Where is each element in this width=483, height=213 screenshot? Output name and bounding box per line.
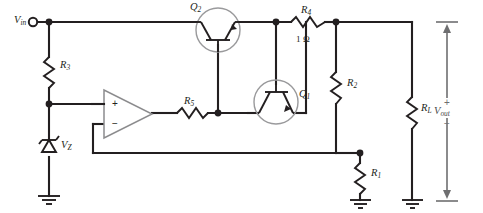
ground-symbol-vz (38, 196, 60, 204)
op-amp (92, 90, 152, 138)
label-r4: R4 (301, 5, 311, 16)
vout-minus-sign: − (444, 118, 450, 129)
node-r4-left (273, 19, 280, 26)
schematic-canvas (0, 0, 483, 213)
resistor-r2 (331, 72, 341, 104)
label-r2: R2 (347, 78, 357, 89)
label-vin: Vin (14, 15, 26, 26)
ground-symbol-rl (402, 200, 423, 208)
label-rl: RL (421, 103, 432, 114)
resistor-r1 (355, 163, 365, 194)
label-r1: R1 (371, 168, 381, 179)
node-zener (46, 101, 53, 108)
node-q2-base (215, 110, 222, 117)
circuit-diagram: Vin R3 R5 R4 1 Ω R2 R1 RL Q1 Q2 VZ + − +… (0, 0, 483, 213)
resistor-rl (407, 97, 417, 129)
node-output-top (333, 19, 340, 26)
opamp-noninverting-sign: + (112, 98, 118, 109)
label-q2: Q2 (190, 2, 201, 13)
label-r3: R3 (60, 60, 70, 71)
node-divider (357, 150, 364, 157)
opamp-inverting-sign: − (112, 118, 118, 129)
label-q1: Q1 (299, 89, 310, 100)
zener-diode-vz (39, 136, 59, 152)
label-r5: R5 (184, 96, 194, 107)
node-vin (46, 19, 53, 26)
resistor-r5 (177, 108, 208, 118)
label-r4-value: 1 Ω (296, 35, 310, 44)
ground-symbol-r1 (350, 200, 371, 208)
label-vout: Vout (434, 106, 450, 117)
resistor-r3 (44, 57, 54, 88)
resistor-r4 (291, 17, 325, 27)
terminal-vin[interactable] (29, 18, 37, 26)
transistor-q1 (254, 80, 298, 124)
label-vz: VZ (61, 140, 72, 151)
transistor-q2 (196, 8, 240, 52)
